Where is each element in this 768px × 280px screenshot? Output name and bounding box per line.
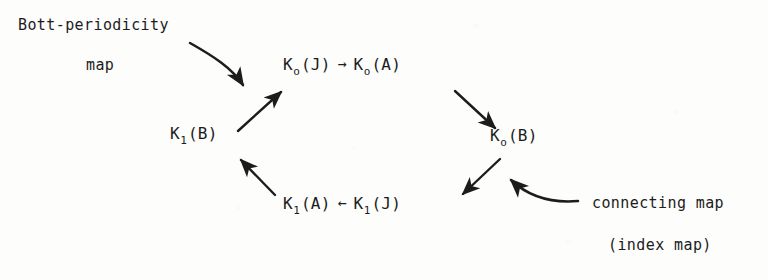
edge-k0a-to-k0b bbox=[455, 91, 495, 128]
connecting-map-callout-arrow bbox=[511, 180, 578, 201]
arrow-right-glyph: → bbox=[330, 55, 353, 73]
connecting-map-label-line1: connecting map bbox=[592, 196, 724, 211]
figure-canvas: Bott-periodicity map connecting map (ind… bbox=[0, 0, 768, 280]
connecting-map-label-line2: (index map) bbox=[608, 238, 712, 253]
edge-k1b-to-k0j bbox=[238, 92, 281, 131]
node-k1b-argument: (B) bbox=[188, 124, 218, 143]
node-k1b-base: K bbox=[170, 124, 180, 143]
node-k0a: Ko(A) bbox=[354, 55, 401, 74]
edge-k0b-to-k1j bbox=[463, 159, 500, 194]
node-k1a-argument: (A) bbox=[301, 194, 331, 213]
bottom-row-group: K1(A)←K1(J) bbox=[283, 196, 401, 216]
node-k1j-base: K bbox=[354, 194, 364, 213]
top-row-group: Ko(J)→Ko(A) bbox=[283, 57, 401, 77]
arrow-left-glyph: ← bbox=[330, 194, 353, 212]
node-k0b: Ko(B) bbox=[490, 128, 537, 148]
node-k0a-base: K bbox=[354, 55, 364, 74]
node-k0b-base: K bbox=[490, 126, 500, 145]
node-k0b-subscript: o bbox=[500, 136, 508, 149]
node-k1j: K1(J) bbox=[354, 194, 401, 213]
node-k0a-argument: (A) bbox=[371, 55, 401, 74]
node-k1a-subscript: 1 bbox=[293, 204, 301, 217]
node-k0j-base: K bbox=[283, 55, 293, 74]
bott-periodicity-label-line1: Bott-periodicity bbox=[18, 18, 169, 33]
node-k1j-argument: (J) bbox=[371, 194, 401, 213]
node-k0j-subscript: o bbox=[293, 65, 301, 78]
node-k0j-argument: (J) bbox=[301, 55, 331, 74]
node-k1a-base: K bbox=[283, 194, 293, 213]
bott-periodicity-label-line2: map bbox=[86, 58, 114, 73]
node-k1j-subscript: 1 bbox=[363, 204, 371, 217]
node-k0b-argument: (B) bbox=[508, 126, 538, 145]
bott-periodicity-callout-arrow bbox=[190, 43, 243, 85]
edge-k1a-to-k1b bbox=[241, 160, 275, 195]
node-k0a-subscript: o bbox=[363, 65, 371, 78]
node-k1b-subscript: 1 bbox=[180, 134, 188, 147]
node-k0j: Ko(J) bbox=[283, 55, 330, 74]
node-k1b: K1(B) bbox=[170, 126, 217, 146]
node-k1a: K1(A) bbox=[283, 194, 330, 213]
